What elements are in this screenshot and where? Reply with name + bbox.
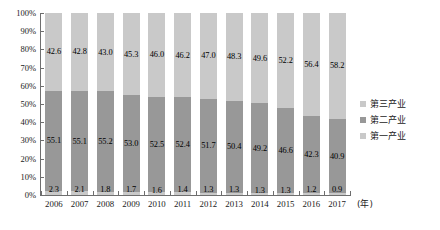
y-axis-tick-mark [40,122,44,123]
legend-swatch-icon [360,133,366,139]
bar-segment-value-label: 49.6 [253,54,267,63]
y-axis-tick-label: 0% [0,191,36,200]
stacked-bar[interactable]: 42.655.12.3 [45,13,62,195]
x-axis-tick-mark [324,191,325,195]
x-axis-tick-label: 2006 [41,198,67,210]
bar-segment-value-label: 55.1 [72,137,86,146]
bar-segment-value-label: 2.3 [49,185,59,194]
bar-segment[interactable]: 55.1 [71,91,88,191]
bar-segment[interactable]: 53.0 [123,95,140,191]
bar-segment-value-label: 1.8 [100,185,110,194]
bar-column[interactable]: 47.051.71.3 [200,13,217,195]
bar-segment-value-label: 40.9 [330,152,344,161]
bar-segment-value-label: 52.5 [150,140,164,149]
legend-item[interactable]: 第二产业 [360,112,440,128]
x-axis-tick-mark [350,191,351,195]
x-axis-line [40,195,351,196]
bar-column[interactable]: 48.350.41.3 [226,13,243,195]
bar-segment[interactable]: 40.9 [329,119,346,193]
bar-column[interactable]: 43.055.21.8 [97,13,114,195]
stacked-bar[interactable]: 45.353.01.7 [123,13,140,195]
stacked-bar[interactable]: 52.246.61.3 [277,13,294,195]
x-axis-tick-label: 2008 [93,198,119,210]
y-axis-tick-mark [40,159,44,160]
bar-segment[interactable]: 48.3 [226,13,243,101]
bar-segment[interactable]: 46.2 [174,13,191,97]
bar-segment-value-label: 42.8 [72,47,86,56]
bar-column[interactable]: 52.246.61.3 [277,13,294,195]
bar-column[interactable]: 45.353.01.7 [123,13,140,195]
bar-segment[interactable]: 49.6 [251,13,268,103]
plot-area: 42.655.12.342.855.12.143.055.21.845.353.… [41,13,350,195]
x-axis-tick-label: 2012 [196,198,222,210]
bar-segment[interactable]: 46.0 [148,13,165,97]
stacked-bar[interactable]: 42.855.12.1 [71,13,88,195]
bar-segment-value-label: 52.2 [278,56,292,65]
y-axis-tick-mark [40,13,44,14]
bar-segment[interactable]: 55.2 [97,91,114,191]
bar-segment[interactable]: 42.8 [71,13,88,91]
x-axis-tick-mark [221,191,222,195]
legend-swatch-icon [360,101,366,107]
y-axis-tick-label: 90% [0,27,36,36]
bar-segment-value-label: 2.1 [75,185,85,194]
bar-segment[interactable]: 51.7 [200,99,217,193]
bar-segment-value-label: 46.2 [175,51,189,60]
bar-segment-value-label: 47.0 [201,51,215,60]
bar-column[interactable]: 56.442.31.2 [303,13,320,195]
bar-segment[interactable]: 42.6 [45,13,62,91]
bar-column[interactable]: 46.252.41.4 [174,13,191,195]
bar-column[interactable]: 58.240.90.9 [329,13,346,195]
x-axis-tick-mark [170,191,171,195]
stacked-bar[interactable]: 56.442.31.2 [303,13,320,195]
bar-segment[interactable]: 46.6 [277,108,294,193]
y-axis-tick-mark [40,104,44,105]
y-axis-tick-mark [40,177,44,178]
y-axis-tick-label: 100% [0,9,36,18]
x-axis-tick-mark [299,191,300,195]
bar-segment[interactable]: 58.2 [329,13,346,119]
x-axis-tick-label: 2017 [324,198,350,210]
bar-segment[interactable]: 56.4 [303,13,320,116]
legend-swatch-icon [360,117,366,123]
stacked-bar[interactable]: 46.252.41.4 [174,13,191,195]
bar-segment-value-label: 45.3 [124,50,138,59]
bar-segment-value-label: 51.7 [201,141,215,150]
bar-segment-value-label: 49.2 [253,144,267,153]
y-axis-tick-label: 40% [0,118,36,127]
bar-column[interactable]: 49.649.21.3 [251,13,268,195]
stacked-bar[interactable]: 58.240.90.9 [329,13,346,195]
y-axis-tick-label: 60% [0,81,36,90]
bar-segment[interactable]: 49.2 [251,103,268,193]
y-axis-tick-mark [40,86,44,87]
x-axis-tick-label: 2009 [118,198,144,210]
x-axis-tick-label: 2007 [67,198,93,210]
bar-column[interactable]: 42.655.12.3 [45,13,62,195]
bar-column[interactable]: 46.052.51.6 [148,13,165,195]
bar-segment[interactable]: 52.2 [277,13,294,108]
stacked-bar[interactable]: 47.051.71.3 [200,13,217,195]
x-axis-unit-label: (年) [357,198,373,210]
y-axis-tick-label: 10% [0,172,36,181]
bar-column[interactable]: 42.855.12.1 [71,13,88,195]
bar-segment-value-label: 1.3 [281,186,291,195]
bar-segment-value-label: 58.2 [330,61,344,70]
bar-segment[interactable]: 43.0 [97,13,114,91]
bar-segment[interactable]: 45.3 [123,13,140,95]
y-axis-tick-mark [40,31,44,32]
bar-segment[interactable]: 52.5 [148,97,165,193]
y-axis-tick-label: 20% [0,154,36,163]
bar-segment[interactable]: 47.0 [200,13,217,99]
stacked-bar[interactable]: 49.649.21.3 [251,13,268,195]
bar-segment-value-label: 0.9 [332,185,342,194]
stacked-bar[interactable]: 48.350.41.3 [226,13,243,195]
bar-segment[interactable]: 42.3 [303,116,320,193]
stacked-bar[interactable]: 46.052.51.6 [148,13,165,195]
bar-segment[interactable]: 52.4 [174,97,191,192]
legend-item[interactable]: 第三产业 [360,96,440,112]
y-axis-tick-label: 50% [0,100,36,109]
legend-item[interactable]: 第一产业 [360,128,440,144]
stacked-bar[interactable]: 43.055.21.8 [97,13,114,195]
bar-segment[interactable]: 55.1 [45,91,62,191]
bar-segment[interactable]: 50.4 [226,101,243,193]
